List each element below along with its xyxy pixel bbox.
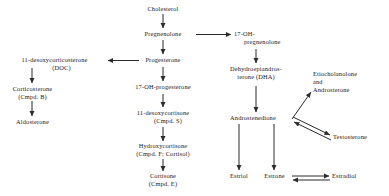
node-hydroxycortisone: Hydroxycortisone (Cmpd. F; Cortisol) xyxy=(107,142,219,158)
node-testosterone: Testosterone xyxy=(333,133,389,141)
node-dha-line-0: Dehydroepiandros- xyxy=(214,65,298,73)
node-progesterone: Progesterone xyxy=(131,56,195,64)
node-corticosterone: Corticosterone (Cmpd. B) xyxy=(0,85,65,101)
node-corticosterone-line-1: (Cmpd. B) xyxy=(0,93,65,101)
node-hydroxycortisone-line-0: Hydroxycortisone xyxy=(107,142,219,150)
node-desoxycorticosterone-line-0: 11-desoxycorticosterone xyxy=(1,56,108,64)
node-etiocholanolone-line-2: Androsterone xyxy=(313,86,389,94)
arrow-androstenedione-testosterone-a xyxy=(293,117,330,135)
node-estrone-line-0: Estrone xyxy=(256,172,293,180)
node-etiocholanolone: Etiocholanolone and Androsterone xyxy=(313,70,389,95)
node-progesterone-line-0: Progesterone xyxy=(131,56,195,64)
node-pregnenolone: Pregnenolone xyxy=(130,30,196,38)
node-cortisone: Cortisone (Cmpd. E) xyxy=(130,172,196,188)
node-androstenedione-line-0: Androstenedione xyxy=(213,114,293,122)
node-oh-pregnenolone-line-1: pregnenolone xyxy=(234,38,314,46)
node-estrone: Estrone xyxy=(256,172,293,180)
node-aldosterone: Aldosterone xyxy=(2,118,63,126)
node-corticosterone-line-0: Corticosterone xyxy=(0,85,65,93)
node-estradiol: Estradiol xyxy=(332,172,382,180)
node-etiocholanolone-line-1: and xyxy=(313,78,389,86)
node-desoxycorticosterone: 11-desoxycorticosterone (DOC) xyxy=(1,56,108,72)
node-cholesterol: Cholesterol xyxy=(131,5,195,13)
node-oh-pregnenolone: 17-OH- pregnenolone xyxy=(234,30,314,46)
node-dha: Dehydroepiandros- terone (DHA) xyxy=(214,65,298,81)
steroid-pathway-diagram: Cholesterol Pregnenolone Progesterone 11… xyxy=(0,0,389,196)
node-estriol: Estriol xyxy=(222,172,256,180)
node-oh-pregnenolone-line-0: 17-OH- xyxy=(234,30,314,38)
node-desoxycortisone-line-0: 11-desoxycortisone xyxy=(119,109,207,117)
node-androstenedione: Androstenedione xyxy=(213,114,293,122)
node-pregnenolone-line-0: Pregnenolone xyxy=(130,30,196,38)
arrow-androstenedione-testosterone-b xyxy=(294,122,331,140)
node-estriol-line-0: Estriol xyxy=(222,172,256,180)
node-desoxycortisone: 11-desoxycortisone (Cmpd. S) xyxy=(119,109,207,125)
node-cortisone-line-0: Cortisone xyxy=(130,172,196,180)
node-dha-line-1: terone (DHA) xyxy=(214,73,298,81)
node-oh-progesterone-line-0: 17-OH-progesterone xyxy=(120,83,206,91)
node-cortisone-line-1: (Cmpd. E) xyxy=(130,180,196,188)
node-hydroxycortisone-line-1: (Cmpd. F; Cortisol) xyxy=(107,150,219,158)
node-cholesterol-line-0: Cholesterol xyxy=(131,5,195,13)
node-desoxycorticosterone-line-1: (DOC) xyxy=(1,64,108,72)
node-oh-progesterone: 17-OH-progesterone xyxy=(120,83,206,91)
node-etiocholanolone-line-0: Etiocholanolone xyxy=(313,70,389,78)
node-aldosterone-line-0: Aldosterone xyxy=(2,118,63,126)
node-testosterone-line-0: Testosterone xyxy=(333,133,389,141)
node-estradiol-line-0: Estradiol xyxy=(332,172,382,180)
node-desoxycortisone-line-1: (Cmpd. S) xyxy=(119,117,207,125)
arrow-androstenedione-etiocholanolone xyxy=(292,92,311,119)
